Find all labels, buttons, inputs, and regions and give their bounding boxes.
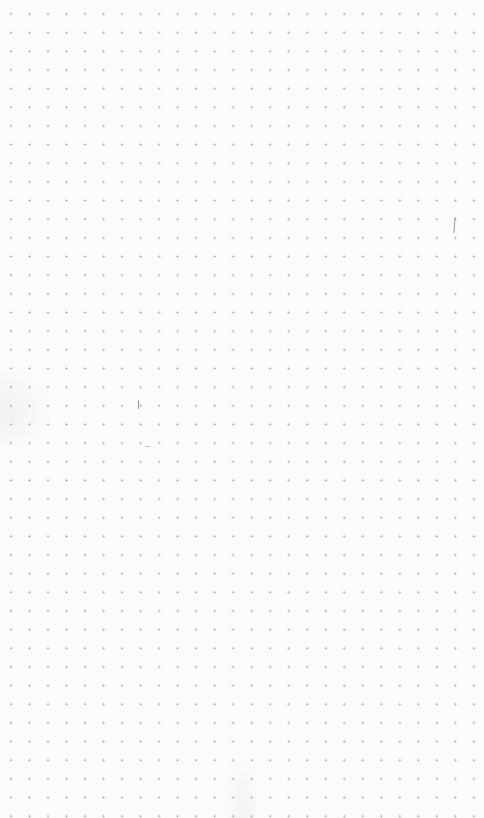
pencil-smudge-center — [145, 446, 150, 447]
pencil-stroke-center — [138, 400, 139, 409]
dot-grid-paper — [0, 0, 484, 818]
dot-grid — [0, 0, 484, 818]
